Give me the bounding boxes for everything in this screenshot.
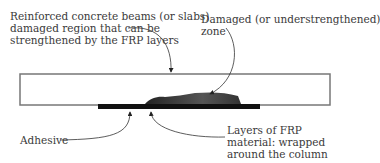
frp-label-line-1: Layers of FRP (227, 124, 328, 136)
frp-arrow (151, 112, 225, 137)
frp-label-line-2: material: wrapped (227, 136, 328, 148)
frp-layer-bar (98, 104, 260, 109)
beams-label-line-3: strengthened by the FRP layers (10, 34, 209, 46)
frp-label: Layers of FRP material: wrapped around t… (227, 124, 328, 160)
beams-label-line-2: damaged region that can be (10, 22, 209, 34)
adhesive-label: Adhesive (20, 134, 68, 146)
damaged-zone-shape (145, 92, 241, 104)
adhesive-arrow (60, 112, 130, 140)
frp-label-line-3: around the column (227, 148, 328, 160)
zone-arrow (210, 28, 234, 94)
zone-label-line-1: Damaged (or understrengthened) (201, 13, 380, 25)
zone-label: Damaged (or understrengthened) zone (201, 13, 380, 37)
zone-label-line-2: zone (201, 25, 380, 37)
beams-label-line-1: Reinforced concrete beams (or slabs) (10, 10, 209, 22)
beams-label: Reinforced concrete beams (or slabs) dam… (10, 10, 209, 46)
